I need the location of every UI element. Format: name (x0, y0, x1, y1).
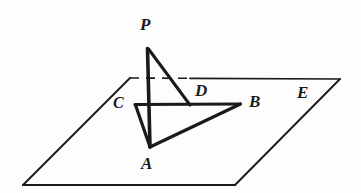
label-plane-e: E (297, 84, 308, 101)
plane-back-edge-solid (190, 78, 340, 79)
segment-pa (148, 49, 151, 148)
label-point-p: P (140, 16, 150, 33)
label-point-c: C (113, 95, 124, 111)
segment-ab (150, 104, 241, 147)
segment-pd (149, 49, 191, 105)
label-point-a: A (141, 155, 152, 172)
geometry-figure: P C D B E A (0, 0, 361, 193)
label-point-d: D (195, 82, 207, 99)
label-point-b: B (249, 93, 260, 110)
